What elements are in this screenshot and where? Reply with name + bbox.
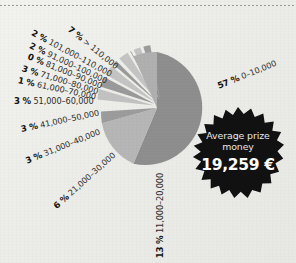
label-pct-51000-60000: 3 % <box>14 96 31 106</box>
label-11000-20000: 13 % 11,000–20,000 <box>156 173 165 258</box>
label-range-51000-60000: 51,000–60,000 <box>34 96 94 106</box>
label-51000-60000: 3 % 51,000–60,000 <box>14 97 94 106</box>
label-pct-11000-20000: 13 % <box>155 236 165 259</box>
infographic-pie-chart: 7 % > 110,000 2 % 101,000–110,000 2 % 91… <box>0 0 296 263</box>
average-prize-money-badge: Average prize money 19,259 € <box>190 106 286 198</box>
badge-amount: 19,259 € <box>201 156 275 174</box>
badge-text-group: Average prize money 19,259 € <box>190 106 286 198</box>
label-range-11000-20000: 11,000–20,000 <box>155 173 165 233</box>
badge-caption: Average prize money <box>204 130 272 153</box>
